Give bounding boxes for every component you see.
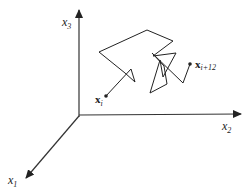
end-point-label: xi+12 [195,58,216,72]
start-point [104,94,108,98]
trajectory-path [99,30,190,96]
x2-axis-label: x2 [221,119,231,135]
end-point [188,62,192,66]
x1-axis-label: x1 [7,173,17,189]
diagram-canvas: x3 x2 x1 xi xi+12 [0,0,251,192]
x2-axis [79,114,241,115]
x1-axis [26,116,79,178]
x3-axis-label: x3 [61,15,71,31]
start-point-label: xi [95,93,103,108]
